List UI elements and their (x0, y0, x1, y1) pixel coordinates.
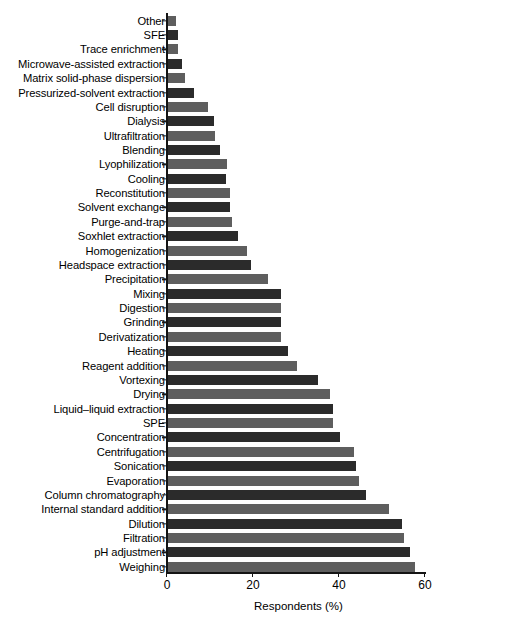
bar (167, 461, 356, 471)
bar-category-label: Grinding (124, 316, 166, 328)
bar (167, 102, 208, 112)
bar (167, 246, 247, 256)
bar (167, 533, 404, 543)
bar-row: Soxhlet extraction (0, 229, 527, 243)
bar (167, 303, 281, 313)
bar-category-label: Liquid–liquid extraction (54, 403, 165, 415)
bar-category-label: Cooling (128, 173, 165, 185)
bar-category-label: Heating (127, 345, 165, 357)
bar-row: Mixing (0, 287, 527, 301)
bar-category-label: Vortexing (119, 374, 165, 386)
bar-chart-figure: OtherSFETrace enrichmentMicrowave-assist… (0, 0, 527, 627)
bar-category-label: Pressurized-solvent extraction (18, 87, 165, 99)
x-tick-label-40: 40 (332, 578, 345, 592)
bar-category-label: Drying (133, 388, 165, 400)
bar-row: Blending (0, 143, 527, 157)
bar-row: Filtration (0, 531, 527, 545)
bar (167, 202, 230, 212)
bar-row: Dilution (0, 516, 527, 530)
bar-row: Evaporation (0, 473, 527, 487)
bar-row: Column chromatography (0, 488, 527, 502)
bar-category-label: Reconstitution (96, 187, 166, 199)
bar-row: Lyophilization (0, 157, 527, 171)
x-axis-title-text: Respondents (%) (254, 600, 343, 612)
bar-row: Cell disruption (0, 100, 527, 114)
bar-row: SPE (0, 416, 527, 430)
bar-row: Liquid–liquid extraction (0, 401, 527, 415)
bar-category-label: Trace enrichment (80, 43, 165, 55)
bar (167, 432, 340, 442)
bar (167, 447, 354, 457)
bar (167, 547, 410, 557)
bar-category-label: Weighing (119, 561, 165, 573)
bar-category-label: Digestion (119, 302, 165, 314)
bar-row: Derivatization (0, 330, 527, 344)
bar (167, 231, 238, 241)
bar-row: Heating (0, 344, 527, 358)
x-tick-0 (166, 572, 167, 577)
bar-row: Concentration (0, 430, 527, 444)
bar-row: Solvent exchange (0, 200, 527, 214)
x-tick-label-60: 60 (418, 578, 431, 592)
x-tick-20 (252, 572, 253, 577)
bar-row: Digestion (0, 301, 527, 315)
bar-row: Ultrafiltration (0, 128, 527, 142)
x-axis-title: Respondents (%) (0, 600, 527, 612)
bar-row: Purge-and-trap (0, 215, 527, 229)
bar-row: Vortexing (0, 373, 527, 387)
caption-strip (0, 619, 527, 627)
bar-category-label: Centrifugation (97, 446, 165, 458)
bar (167, 88, 194, 98)
bar-category-label: Headspace extraction (59, 259, 165, 271)
bar-category-label: Reagent addition (82, 360, 165, 372)
bar (167, 289, 281, 299)
bar-category-label: Soxhlet extraction (78, 230, 165, 242)
bar-category-label: Internal standard addition (41, 503, 165, 515)
bar (167, 361, 297, 371)
bar (167, 562, 415, 572)
bar (167, 44, 178, 54)
bar (167, 116, 214, 126)
bar-row: Headspace extraction (0, 258, 527, 272)
bar-category-label: Derivatization (99, 331, 165, 343)
bar-category-label: Ultrafiltration (104, 130, 165, 142)
bar (167, 375, 318, 385)
bar-row: Reagent addition (0, 358, 527, 372)
bar (167, 30, 178, 40)
bar-row: Dialysis (0, 114, 527, 128)
bar-row: Drying (0, 387, 527, 401)
bar (167, 73, 185, 83)
bar (167, 346, 288, 356)
bar-row: Microwave-assisted extraction (0, 57, 527, 71)
plot-area: OtherSFETrace enrichmentMicrowave-assist… (0, 0, 527, 627)
bar-category-label: Lyophilization (99, 158, 165, 170)
x-tick-40 (338, 572, 339, 577)
bar (167, 476, 359, 486)
bar-row: SFE (0, 28, 527, 42)
bar-category-label: Other (138, 15, 165, 27)
bar-category-label: Concentration (97, 431, 165, 443)
bar-category-label: Microwave-assisted extraction (18, 58, 165, 70)
bar-category-label: Dilution (128, 518, 165, 530)
bar-row: Grinding (0, 315, 527, 329)
bar-category-label: pH adjustment (94, 546, 165, 558)
bar-category-label: Solvent exchange (78, 201, 165, 213)
bar-row: Cooling (0, 172, 527, 186)
bar (167, 504, 389, 514)
bar (167, 16, 176, 26)
x-tick-60 (424, 572, 425, 577)
x-axis-line (166, 572, 426, 574)
bar (167, 260, 251, 270)
bar-row: Trace enrichment (0, 42, 527, 56)
bar-row: Other (0, 14, 527, 28)
bar-category-label: Sonication (114, 460, 165, 472)
bar (167, 389, 330, 399)
bar (167, 217, 232, 227)
bar-category-label: Column chromatography (45, 489, 165, 501)
bar-category-label: Blending (122, 144, 165, 156)
bar-row: Precipitation (0, 272, 527, 286)
bar-row: Internal standard addition (0, 502, 527, 516)
bar (167, 145, 220, 155)
bar-category-label: Cell disruption (96, 101, 165, 113)
bar-category-label: Matrix solid-phase dispersion (23, 72, 165, 84)
